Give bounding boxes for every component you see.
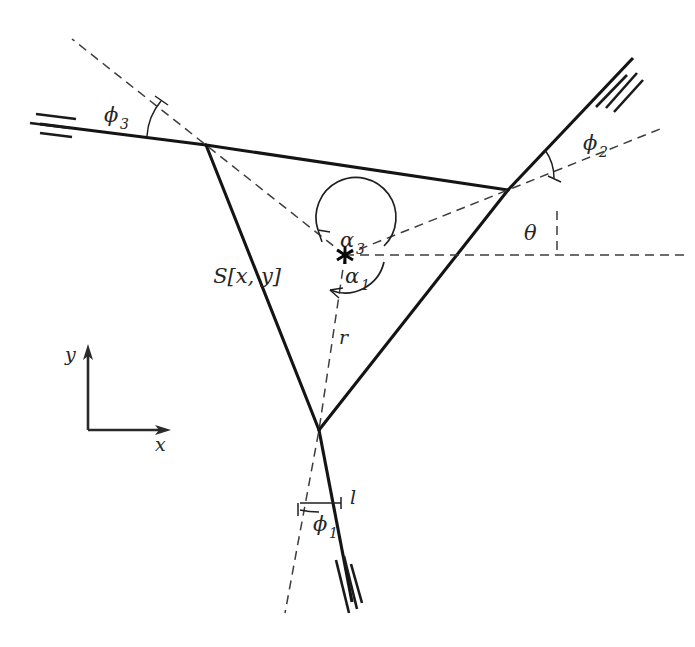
alpha1-subscript: 1: [361, 277, 370, 293]
arc-phi2: [545, 150, 554, 178]
phi2-subscript: 2: [598, 144, 608, 160]
geometry-diagram: S[x, y] r l θ ϕ 3 ϕ 2 ϕ 1 α 3 α 1: [0, 0, 695, 647]
alpha1-label: α: [345, 264, 359, 288]
branch-arms: [40, 58, 633, 602]
arc-alpha3: [316, 177, 396, 246]
phi1-subscript: 1: [329, 525, 338, 541]
alpha3-label: α: [340, 228, 354, 252]
arm-upper-right-hatch-marks: [596, 73, 643, 112]
alpha3-subscript: 3: [356, 241, 365, 257]
ray-to-top-left: [72, 39, 345, 255]
arm-left-hatch-marks: [30, 114, 76, 137]
phi1-label: ϕ: [313, 512, 327, 536]
hatch-mark: [351, 564, 362, 603]
ray-to-bottom: [285, 255, 345, 613]
arc-phi3: [147, 101, 161, 136]
arc-group-phi3: [147, 96, 168, 136]
radial-rays: [72, 39, 688, 613]
theta-label: θ: [524, 221, 537, 245]
phi3-label: ϕ: [104, 103, 118, 127]
arm-upper-right: [508, 58, 633, 190]
alpha1-label-group: α 1: [345, 264, 370, 293]
center-point-label: S[x, y]: [213, 264, 282, 288]
phi2-label: ϕ: [583, 131, 597, 155]
hatch-mark: [40, 133, 72, 137]
phi2-label-group: ϕ 2: [583, 131, 608, 160]
hatch-mark: [36, 114, 76, 119]
radius-label: r: [339, 326, 350, 348]
edge-top: [206, 145, 508, 190]
axis-y-label: y: [64, 343, 76, 365]
figure-canvas: S[x, y] r l θ ϕ 3 ϕ 2 ϕ 1 α 3 α 1: [0, 0, 695, 647]
arrowhead-alpha3: [318, 230, 330, 242]
phi3-label-group: ϕ 3: [104, 103, 129, 132]
arc-tick-phi3: [155, 96, 168, 105]
arc-group-phi2: [545, 150, 561, 182]
phi3-subscript: 3: [120, 116, 129, 132]
axis-indicator: [83, 344, 171, 435]
length-label: l: [350, 486, 356, 508]
axis-x-label: x: [155, 433, 166, 455]
edge-right: [319, 190, 508, 430]
